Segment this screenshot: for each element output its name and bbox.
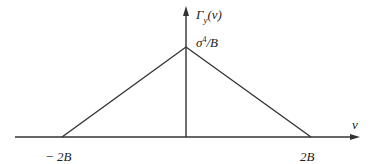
x-axis-arrow-icon	[350, 134, 360, 140]
y-axis-arrow-icon	[183, 6, 189, 16]
right-tick-label: 2B	[300, 150, 314, 163]
triangle-diagram	[0, 0, 372, 164]
left-tick-label: − 2B	[45, 150, 71, 163]
y-axis-label: Γy(ν)	[196, 8, 222, 25]
x-axis-label: ν	[352, 118, 358, 131]
peak-label: σ4/B	[196, 36, 218, 49]
